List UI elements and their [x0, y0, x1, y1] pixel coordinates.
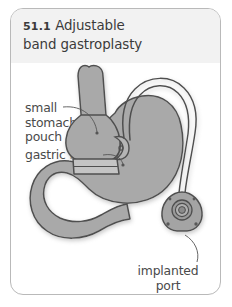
band-buckle-shape [115, 137, 129, 160]
access-port-suture-hole-top-right [193, 198, 196, 201]
access-port-suture-hole-right [194, 222, 197, 225]
band-buckle-dot [119, 146, 123, 150]
connecting-tubing-inner-shape [129, 86, 188, 193]
connecting-tubing-shape [123, 78, 196, 193]
figure-title-line1: Adjustable [55, 18, 125, 33]
callout-gastric-band: gastric band [25, 148, 100, 163]
leader-dot-gastric-band [121, 163, 124, 166]
access-port-body [162, 192, 202, 231]
esophagus-shape [78, 66, 106, 128]
callout-small-stomach-pouch: small stomach pouch [25, 101, 77, 145]
figure-root: 51.1 Adjustable band gastroplasty small … [0, 0, 232, 307]
callout-implanted-port: implanted port [129, 264, 207, 293]
access-port-suture-hole-top-left [169, 198, 172, 201]
access-port-outer-ring [172, 200, 192, 220]
leader-line-gastric-band [103, 155, 123, 164]
leader-dot-small-stomach-pouch [95, 131, 98, 134]
figure-frame: 51.1 Adjustable band gastroplasty small … [10, 8, 221, 295]
figure-title-line2: band gastroplasty [23, 37, 142, 52]
access-port-mid-ring [175, 203, 188, 216]
page-title: 51.1 Adjustable band gastroplasty [23, 17, 209, 53]
access-port-suture-hole-left [166, 222, 169, 225]
figure-number: 51.1 [23, 20, 51, 33]
leader-line-implanted-port [185, 235, 198, 262]
access-port-septum [179, 207, 186, 214]
